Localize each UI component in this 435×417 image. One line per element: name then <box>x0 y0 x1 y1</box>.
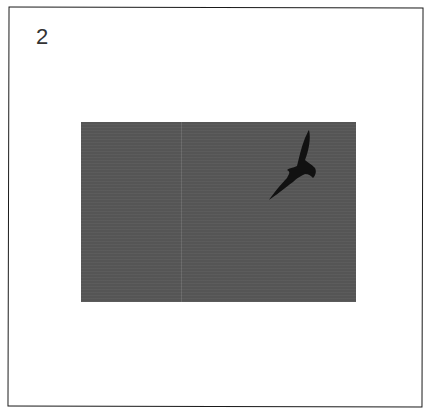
card-label: 2 <box>36 24 48 50</box>
photo-seam <box>181 122 182 302</box>
bird-silhouette-icon <box>267 128 319 200</box>
bird-photo <box>81 122 356 302</box>
